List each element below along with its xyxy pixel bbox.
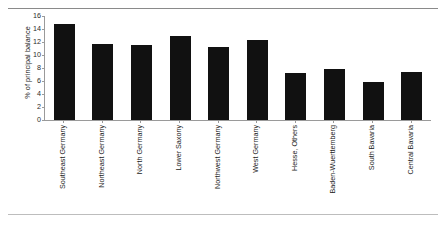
x-label-slot: Northeast Germany xyxy=(83,123,122,211)
x-label-slot: Lower Saxony xyxy=(160,123,199,211)
y-axis-title: % of principal balance xyxy=(23,8,32,118)
bar-series xyxy=(45,16,431,120)
x-tick-label: Central Bavaria xyxy=(407,125,414,175)
bar-slot xyxy=(354,16,393,120)
x-axis-labels: Southeast Germany Northeast Germany Nort… xyxy=(44,123,430,211)
bar-chart-figure: % of principal balance 16 14 12 10 8 6 4… xyxy=(0,10,446,212)
x-tick-label: Lower Saxony xyxy=(175,125,182,171)
bar-slot xyxy=(199,16,238,120)
x-label-slot: Southeast Germany xyxy=(44,123,83,211)
x-label-slot: North Germany xyxy=(121,123,160,211)
x-tick-mark xyxy=(102,120,103,123)
x-tick-label: North Germany xyxy=(137,125,144,174)
y-tick-mark-0 xyxy=(42,120,45,121)
bar[interactable] xyxy=(131,45,152,120)
bar[interactable] xyxy=(363,82,384,120)
x-label-slot: Baden-Wuerttemberg xyxy=(314,123,353,211)
bar-slot xyxy=(238,16,277,120)
bar[interactable] xyxy=(247,40,268,120)
bar[interactable] xyxy=(54,24,75,120)
x-tick-mark xyxy=(218,120,219,123)
bar[interactable] xyxy=(92,44,113,120)
bar-slot xyxy=(315,16,354,120)
x-tick-label: Northeast Germany xyxy=(98,125,105,188)
x-tick-label: West Germany xyxy=(253,125,260,173)
bar-slot xyxy=(122,16,161,120)
x-label-slot: Central Bavaria xyxy=(391,123,430,211)
x-tick-mark xyxy=(140,120,141,123)
x-label-slot: Northwest Germany xyxy=(198,123,237,211)
bar[interactable] xyxy=(285,73,306,120)
bar-slot xyxy=(277,16,316,120)
x-label-slot: West Germany xyxy=(237,123,276,211)
x-tick-label: Southeast Germany xyxy=(60,125,67,189)
plot-axes: 16 14 12 10 8 6 4 2 0 xyxy=(44,16,431,121)
x-tick-mark xyxy=(295,120,296,123)
bar[interactable] xyxy=(401,72,422,120)
x-label-slot: Hesse, Others xyxy=(276,123,315,211)
x-tick-label: Hesse, Others xyxy=(291,125,298,171)
bar-slot xyxy=(392,16,431,120)
bar-slot xyxy=(84,16,123,120)
bar[interactable] xyxy=(170,36,191,121)
x-label-slot: South Bavaria xyxy=(353,123,392,211)
top-divider xyxy=(8,8,438,9)
x-tick-mark xyxy=(411,120,412,123)
bar-slot xyxy=(161,16,200,120)
x-tick-mark xyxy=(333,120,334,123)
x-tick-mark xyxy=(63,120,64,123)
bar[interactable] xyxy=(208,47,229,120)
x-tick-label: Baden-Wuerttemberg xyxy=(330,125,337,194)
chart-page: % of principal balance 16 14 12 10 8 6 4… xyxy=(0,0,446,228)
bar[interactable] xyxy=(324,69,345,120)
bottom-divider xyxy=(8,214,438,215)
x-tick-mark xyxy=(256,120,257,123)
x-tick-label: South Bavaria xyxy=(368,125,375,170)
x-tick-mark xyxy=(179,120,180,123)
bar-slot xyxy=(45,16,84,120)
x-tick-label: Northwest Germany xyxy=(214,125,221,189)
x-tick-mark xyxy=(372,120,373,123)
